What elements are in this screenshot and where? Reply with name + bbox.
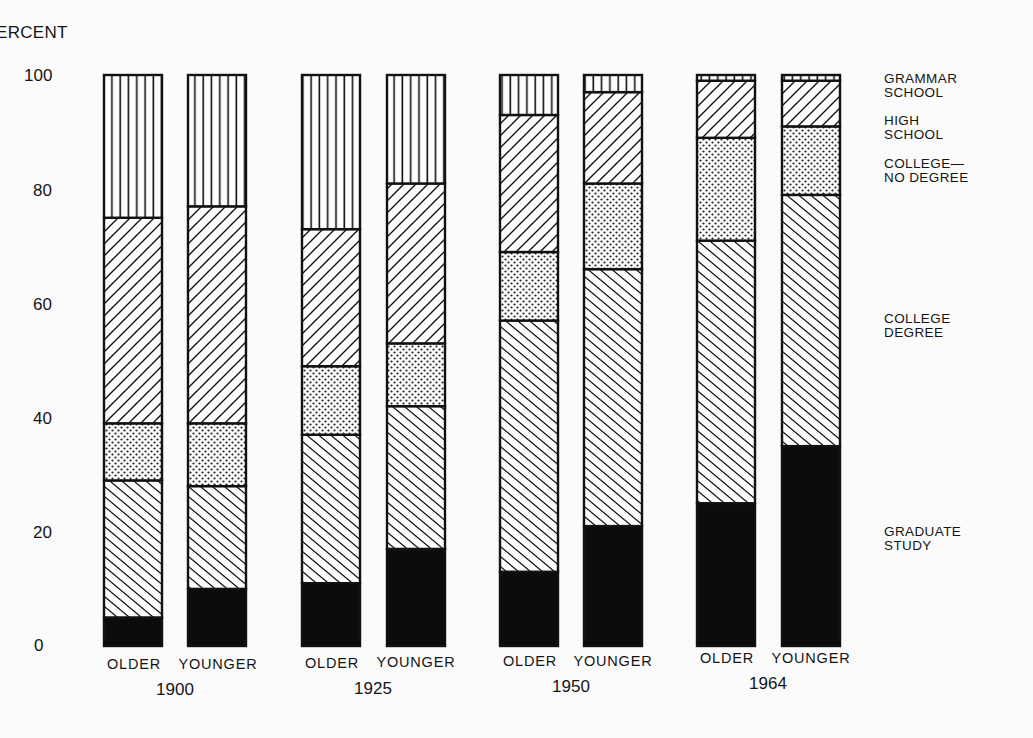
y-tick-20: 20 [33, 523, 73, 543]
segment-solid-black [104, 617, 162, 646]
segment-solid-black [697, 503, 755, 646]
segment-dots [302, 366, 360, 435]
segment-slash-hatch [188, 206, 246, 423]
segment-backslash-hatch [302, 435, 360, 583]
x-label-1964-older: OLDER [687, 650, 767, 666]
segment-slash-hatch [697, 81, 755, 138]
segment-vertical-lines [584, 75, 642, 92]
segment-backslash-hatch [697, 241, 755, 504]
x-label-1900-younger: YOUNGER [170, 656, 266, 672]
segment-slash-hatch [387, 183, 445, 343]
bar-1964-older [697, 75, 755, 646]
segment-dots [782, 126, 840, 195]
y-tick-100: 100 [24, 66, 64, 86]
bar-1900-younger [188, 75, 246, 646]
segment-dots [188, 423, 246, 486]
x-label-1925-younger: YOUNGER [368, 654, 464, 670]
segment-slash-hatch [500, 115, 558, 252]
segment-solid-black [584, 526, 642, 646]
legend-college-degree: COLLEGE DEGREE [884, 312, 951, 340]
x-label-1925-older: OLDER [292, 655, 372, 671]
y-tick-60: 60 [33, 295, 73, 315]
segment-vertical-lines [387, 75, 445, 183]
y-tick-80: 80 [33, 181, 73, 201]
segment-backslash-hatch [104, 480, 162, 617]
segment-dots [584, 183, 642, 269]
x-label-1900-older: OLDER [94, 656, 174, 672]
bar-1900-older [104, 75, 162, 646]
segment-slash-hatch [104, 218, 162, 424]
segment-vertical-lines [104, 75, 162, 218]
legend-grammar-school: GRAMMAR SCHOOL [884, 72, 957, 100]
segment-solid-black [188, 589, 246, 646]
segment-vertical-lines [188, 75, 246, 206]
segment-solid-black [782, 446, 840, 646]
x-label-1950-younger: YOUNGER [565, 653, 661, 669]
segment-solid-black [387, 549, 445, 646]
x-group-1925: 1925 [343, 679, 403, 699]
x-group-1900: 1900 [145, 680, 205, 700]
x-label-1950-older: OLDER [490, 653, 570, 669]
segment-backslash-hatch [188, 486, 246, 589]
segment-solid-black [500, 572, 558, 646]
bar-1950-younger [584, 75, 642, 646]
segment-dots [387, 343, 445, 406]
segment-vertical-lines [302, 75, 360, 229]
segment-backslash-hatch [387, 406, 445, 549]
segment-backslash-hatch [782, 195, 840, 446]
bars-layer [104, 75, 840, 646]
segment-solid-black [302, 583, 360, 646]
legend-high-school: HIGH SCHOOL [884, 114, 943, 142]
bar-1925-older [302, 75, 360, 646]
chart-plot-area [0, 0, 1033, 738]
x-label-1964-younger: YOUNGER [763, 650, 859, 666]
segment-slash-hatch [584, 92, 642, 183]
segment-backslash-hatch [500, 321, 558, 572]
legend-graduate-study: GRADUATE STUDY [884, 525, 961, 553]
x-group-1964: 1964 [738, 674, 798, 694]
segment-vertical-lines [697, 75, 755, 81]
y-tick-40: 40 [33, 409, 73, 429]
segment-vertical-lines [500, 75, 558, 115]
segment-backslash-hatch [584, 269, 642, 526]
segment-dots [104, 423, 162, 480]
stacked-bar-chart: ERCENT 100 80 60 40 20 0 GRAMMAR SCHOOL … [0, 0, 1033, 738]
segment-slash-hatch [782, 81, 840, 127]
segment-vertical-lines [782, 75, 840, 81]
segment-dots [500, 252, 558, 321]
bar-1964-younger [782, 75, 840, 646]
x-group-1950: 1950 [541, 677, 601, 697]
legend-college-no-degree: COLLEGE— NO DEGREE [884, 157, 969, 185]
y-axis-title: ERCENT [0, 23, 68, 43]
segment-slash-hatch [302, 229, 360, 366]
bar-1925-younger [387, 75, 445, 646]
segment-dots [697, 138, 755, 241]
bar-1950-older [500, 75, 558, 646]
y-tick-0: 0 [34, 636, 74, 656]
